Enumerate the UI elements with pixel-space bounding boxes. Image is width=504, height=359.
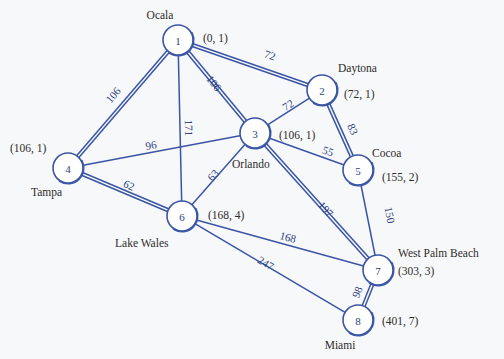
node-1[interactable]: 1 — [163, 25, 193, 55]
edge-weight-1-6: 171 — [183, 120, 195, 137]
city-label: Lake Wales — [115, 237, 169, 249]
node-number-5: 5 — [355, 165, 361, 177]
node-7[interactable]: 7 — [363, 255, 393, 285]
edge-weight-2-3: 72 — [280, 97, 296, 113]
node-number-3: 3 — [252, 128, 258, 140]
graph-canvas: 12345678 7210610617172839655631976215016… — [0, 0, 504, 359]
graph-diagram: 12345678 7210610617172839655631976215016… — [0, 0, 504, 359]
edge-weight-1-2: 72 — [263, 48, 277, 63]
edge-weight-3-4: 96 — [144, 138, 158, 152]
node-pair-label: (155, 2) — [382, 171, 419, 184]
edge-weight-1-4: 106 — [103, 84, 123, 105]
node-pair-label: (401, 7) — [382, 315, 419, 328]
city-label: Orlando — [232, 158, 270, 170]
node-8[interactable]: 8 — [343, 305, 373, 335]
node-number-2: 2 — [319, 85, 325, 97]
node-pair-label: (0, 1) — [203, 32, 228, 45]
edge-6-7 — [195, 220, 364, 267]
city-label: Daytona — [338, 62, 377, 75]
node-5[interactable]: 5 — [343, 155, 373, 185]
edge-weight-2-5: 83 — [345, 122, 361, 137]
edge-weight-3-6: 63 — [205, 167, 222, 184]
node-pair-label: (106, 1) — [10, 142, 47, 155]
city-label: West Palm Beach — [398, 247, 479, 259]
node-number-7: 7 — [375, 265, 381, 277]
city-label: Ocala — [147, 9, 174, 21]
edge-1-6 — [178, 54, 181, 202]
edge-3-4 — [82, 136, 241, 166]
edge-5-7 — [361, 184, 376, 257]
node-number-6: 6 — [179, 211, 185, 223]
node-pair-label: (72, 1) — [344, 88, 375, 101]
edge-weight-7-8: 98 — [349, 284, 364, 299]
node-4[interactable]: 4 — [53, 153, 83, 183]
node-pair-label: (168, 4) — [208, 209, 245, 222]
node-number-1: 1 — [175, 35, 181, 47]
node-pair-label: (106, 1) — [279, 129, 316, 142]
edge-weight-3-5: 55 — [321, 143, 336, 158]
city-label: Cocoa — [372, 147, 401, 159]
node-2[interactable]: 2 — [307, 75, 337, 105]
node-6[interactable]: 6 — [167, 201, 197, 231]
edge-weight-5-7: 150 — [382, 206, 397, 225]
node-number-8: 8 — [355, 315, 361, 327]
node-pair-label: (303, 3) — [398, 265, 435, 278]
city-label: Miami — [325, 339, 356, 351]
city-label: Tampa — [31, 186, 62, 199]
node-3[interactable]: 3 — [240, 118, 270, 148]
node-number-4: 4 — [65, 163, 71, 175]
edge-7-8 — [362, 282, 374, 307]
